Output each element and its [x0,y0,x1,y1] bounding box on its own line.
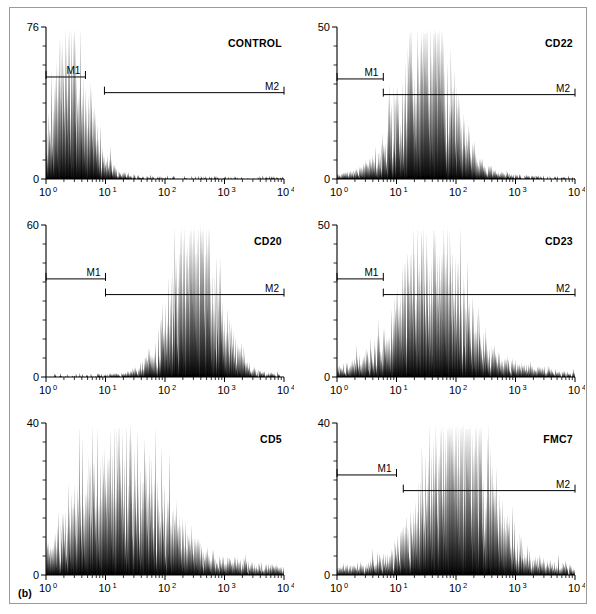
marker-m2: M2 [383,283,575,297]
svg-text:10: 10 [449,582,461,594]
svg-text:10: 10 [330,582,342,594]
marker-label: M2 [265,283,279,294]
svg-text:10: 10 [158,384,170,396]
svg-text:10: 10 [98,384,110,396]
x-axis-tick-label: 103 [217,581,235,595]
svg-text:10: 10 [277,186,289,198]
svg-text:10: 10 [508,186,520,198]
histogram-trace [337,423,575,575]
svg-text:2: 2 [172,581,176,590]
histogram-trace [46,225,284,377]
svg-text:4: 4 [291,581,294,590]
svg-text:3: 3 [522,185,526,194]
x-axis-tick-label: 102 [158,581,176,595]
svg-text:3: 3 [231,383,235,392]
svg-text:4: 4 [291,185,294,194]
svg-text:3: 3 [522,383,526,392]
histogram-trace [46,423,284,575]
histogram-area [46,225,284,377]
x-axis-tick-label: 103 [508,185,526,199]
svg-text:2: 2 [172,185,176,194]
x-axis-tick-label: 103 [508,581,526,595]
x-axis-tick-label: 101 [98,185,116,199]
svg-text:10: 10 [330,384,342,396]
svg-text:10: 10 [217,384,229,396]
marker-m1: M1 [46,65,85,79]
y-axis-min-label: 0 [324,173,330,185]
x-axis-tick-label: 104 [568,185,585,199]
svg-text:10: 10 [98,582,110,594]
x-axis-tick-label: 102 [158,383,176,397]
x-axis-tick-label: 102 [158,185,176,199]
svg-text:2: 2 [463,383,467,392]
histogram-panel-cd22: 500100101102103104CD22M1M2 [300,7,585,203]
histogram-trace [337,225,575,377]
x-axis-tick-label: 100 [330,383,348,397]
svg-text:1: 1 [112,581,116,590]
y-axis-min-label: 0 [33,569,39,581]
svg-text:10: 10 [389,384,401,396]
svg-text:10: 10 [389,186,401,198]
x-axis-tick-label: 101 [389,185,407,199]
x-axis-tick-label: 101 [389,581,407,595]
x-axis-tick-label: 100 [330,185,348,199]
histogram-panel-control: 760100101102103104CONTROLM1M2 [9,7,294,203]
panel-title: FMC7 [543,433,573,445]
svg-text:2: 2 [463,185,467,194]
flow-cytometry-figure: 760100101102103104CONTROLM1M250010010110… [0,0,596,614]
marker-group: M1M2 [337,267,575,297]
y-axis-min-label: 0 [324,569,330,581]
svg-text:10: 10 [449,186,461,198]
panel-title: CD5 [260,433,282,445]
x-axis-tick-label: 104 [568,383,585,397]
histogram-panel-fmc7: 400100101102103104FMC7M1M2 [300,403,585,599]
marker-m2: M2 [403,479,575,493]
svg-text:4: 4 [582,581,585,590]
svg-text:10: 10 [39,582,51,594]
x-axis-tick-label: 100 [39,383,57,397]
svg-text:0: 0 [53,185,57,194]
panel-title: CD23 [545,235,573,247]
marker-label: M2 [556,479,570,490]
svg-text:10: 10 [389,582,401,594]
svg-text:10: 10 [39,384,51,396]
svg-text:1: 1 [403,581,407,590]
svg-text:4: 4 [582,185,585,194]
y-axis-max-label: 40 [27,417,39,429]
x-axis-tick-label: 102 [449,383,467,397]
panel-title: CONTROL [228,37,282,49]
y-axis-max-label: 50 [318,219,330,231]
histogram-area [337,27,575,179]
svg-text:10: 10 [158,582,170,594]
marker-group: M1M2 [46,65,284,95]
marker-label: M2 [556,283,570,294]
svg-text:10: 10 [39,186,51,198]
x-axis-tick-label: 103 [508,383,526,397]
y-axis-max-label: 76 [27,21,39,33]
marker-label: M2 [556,83,570,94]
histogram-panel-grid: 760100101102103104CONTROLM1M250010010110… [9,7,587,604]
svg-text:10: 10 [449,384,461,396]
svg-text:1: 1 [403,185,407,194]
x-axis-tick-label: 100 [330,581,348,595]
svg-text:10: 10 [217,582,229,594]
figure-caption: (b) [18,587,32,599]
svg-text:0: 0 [344,581,348,590]
panel-title: CD22 [545,37,573,49]
svg-text:4: 4 [291,383,294,392]
y-axis-min-label: 0 [33,371,39,383]
marker-group: M1M2 [337,67,575,97]
svg-text:3: 3 [231,581,235,590]
marker-m1: M1 [46,267,106,281]
svg-text:10: 10 [158,186,170,198]
svg-text:0: 0 [53,581,57,590]
svg-text:3: 3 [231,185,235,194]
marker-label: M1 [378,463,392,474]
x-axis-tick-label: 103 [217,185,235,199]
panel-title: CD20 [254,235,282,247]
y-axis-max-label: 40 [318,417,330,429]
x-axis-tick-label: 104 [277,383,294,397]
histogram-area [46,423,284,575]
histogram-trace [337,27,575,179]
marker-m2: M2 [383,83,575,97]
